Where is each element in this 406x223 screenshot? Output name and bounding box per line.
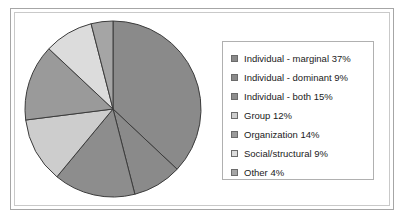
legend-swatch-icon <box>231 55 238 62</box>
pie-slice-group <box>25 21 201 197</box>
legend-item-label: Individual - dominant 9% <box>244 72 348 83</box>
legend-swatch-icon <box>231 74 238 81</box>
legend-item-label: Individual - both 15% <box>244 91 333 102</box>
legend-item-label: Other 4% <box>244 167 284 178</box>
legend-item-individual-marginal: Individual - marginal 37% <box>231 49 373 67</box>
legend-item-individual-both: Individual - both 15% <box>231 87 373 105</box>
legend-swatch-icon <box>231 112 238 119</box>
pie-svg <box>22 18 204 200</box>
legend-item-label: Organization 14% <box>244 129 320 140</box>
legend-swatch-icon <box>231 169 238 176</box>
legend-item-group: Group 12% <box>231 106 373 124</box>
legend-item-organization: Organization 14% <box>231 125 373 143</box>
legend-item-other: Other 4% <box>231 163 373 181</box>
legend-swatch-icon <box>231 93 238 100</box>
legend-swatch-icon <box>231 150 238 157</box>
legend-item-label: Social/structural 9% <box>244 148 328 159</box>
pie-chart-figure: Individual - marginal 37% Individual - d… <box>0 0 406 223</box>
legend-swatch-icon <box>231 131 238 138</box>
legend-item-label: Group 12% <box>244 110 292 121</box>
pie-plot-area <box>22 18 204 200</box>
legend-item-individual-dominant: Individual - dominant 9% <box>231 68 373 86</box>
legend-item-social-structural: Social/structural 9% <box>231 144 373 162</box>
chart-legend: Individual - marginal 37% Individual - d… <box>222 41 374 180</box>
legend-item-label: Individual - marginal 37% <box>244 53 351 64</box>
